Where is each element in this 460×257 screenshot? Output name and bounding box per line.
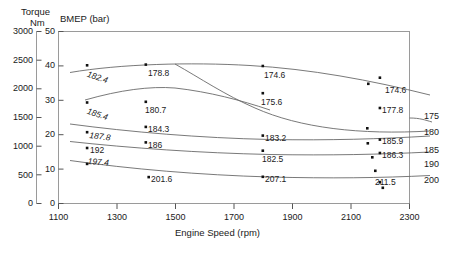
point-label-201-6: 201.6 <box>151 174 172 184</box>
bmep-tick-40: 40 <box>26 60 55 70</box>
contour-label-200: 200 <box>424 175 439 185</box>
bmep-tick-30: 30 <box>26 95 55 105</box>
bmep-tick-10: 10 <box>26 164 55 174</box>
point-label-177-8: 177.8 <box>382 105 403 115</box>
torque-axis <box>37 32 42 204</box>
torque-tick-2000: 2000 <box>0 83 33 93</box>
torque-axis-title-line1: Torque <box>21 6 50 17</box>
x-tick-2100: 2100 <box>331 212 371 222</box>
data-point-markers <box>86 63 384 189</box>
point-label-197-4: 197.4 <box>87 156 109 167</box>
torque-tick-1000: 1000 <box>0 141 33 151</box>
point-label-174-6-b: 174.6 <box>385 85 406 95</box>
bmep-tick-0: 0 <box>26 198 55 208</box>
contour-label-185: 185 <box>424 145 439 155</box>
x-tick-1100: 1100 <box>39 212 79 222</box>
bmep-tick-50: 50 <box>26 26 55 36</box>
x-tick-1700: 1700 <box>214 212 254 222</box>
contour-label-180: 180 <box>424 127 439 137</box>
bsfc-contour-lines <box>70 64 430 178</box>
point-label-184-3: 184.3 <box>148 124 169 134</box>
x-tick-1900: 1900 <box>273 212 313 222</box>
point-label-174-6: 174.6 <box>264 70 285 80</box>
point-label-186-3: 186.3 <box>382 150 403 160</box>
x-axis-label: Engine Speed (rpm) <box>175 227 260 238</box>
bmep-axis-ticks <box>59 32 64 204</box>
point-label-192: 192 <box>90 145 104 155</box>
contour-200 <box>70 161 430 178</box>
point-label-175-6: 175.6 <box>261 97 282 107</box>
contour-190 <box>70 142 430 155</box>
x-tick-2300: 2300 <box>390 212 430 222</box>
point-label-186: 186 <box>148 140 162 150</box>
contour-label-175: 175 <box>424 111 439 121</box>
x-tick-1300: 1300 <box>97 212 137 222</box>
bmep-tick-20: 20 <box>26 129 55 139</box>
point-label-183-2: 183.2 <box>265 133 286 143</box>
contour-175 <box>70 64 430 95</box>
x-tick-1500: 1500 <box>156 212 196 222</box>
point-label-185-9: 185.9 <box>382 136 403 146</box>
contour-180 <box>85 88 270 111</box>
point-label-211-5: 211.5 <box>375 177 396 187</box>
point-label-182-5: 182.5 <box>262 154 283 164</box>
point-label-180-7: 180.7 <box>145 105 166 115</box>
point-label-178-8: 178.8 <box>148 68 169 78</box>
contour-label-190: 190 <box>424 159 439 169</box>
contour-180-right <box>175 64 430 132</box>
torque-tick-1500: 1500 <box>0 112 33 122</box>
x-axis-ticks <box>59 204 410 210</box>
bmep-axis-title: BMEP (bar) <box>60 13 109 24</box>
point-label-207-1: 207.1 <box>265 174 286 184</box>
